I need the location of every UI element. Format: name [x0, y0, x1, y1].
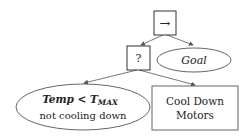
edge-sequence-selector [141, 35, 163, 45]
action-line1: Cool Down [166, 95, 224, 107]
sequence-arrow-icon: → [160, 16, 171, 31]
selector-node: ? [127, 46, 150, 70]
goal-label: Goal [181, 54, 207, 67]
edge-selector-condition [84, 70, 137, 83]
sequence-node: → [154, 11, 176, 35]
action-node: Cool Down Motors [152, 86, 238, 130]
selector-question-icon: ? [136, 52, 142, 65]
action-line2: Motors [176, 109, 214, 121]
behavior-tree-diagram: → ? Goal Temp < TMAX not cooling down Co… [0, 0, 248, 137]
edge-selector-action [139, 70, 195, 85]
edge-sequence-goal [167, 35, 193, 45]
condition-node: Temp < TMAX not cooling down [16, 84, 150, 130]
condition-line2: not cooling down [39, 110, 127, 121]
goal-node: Goal [157, 48, 231, 72]
